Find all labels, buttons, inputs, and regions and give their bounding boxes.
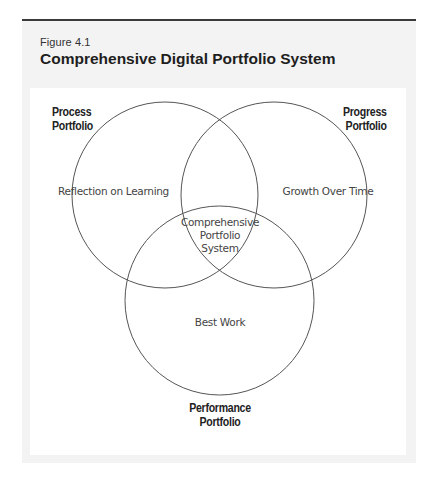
center-line3: System <box>170 242 270 255</box>
center-intersection-label: Comprehensive Portfolio System <box>170 216 270 255</box>
process-label-line2: Portfolio <box>52 119 93 133</box>
process-portfolio-label: Process Portfolio <box>52 105 93 133</box>
progress-label-line2: Portfolio <box>343 119 387 133</box>
center-line1: Comprehensive <box>170 216 270 229</box>
reflection-on-learning-text: Reflection on Learning <box>58 185 168 198</box>
performance-label-line1: Performance <box>167 401 273 415</box>
progress-portfolio-label: Progress Portfolio <box>343 105 387 133</box>
performance-portfolio-label: Performance Portfolio <box>167 401 273 429</box>
process-label-line1: Process <box>52 105 93 119</box>
best-work-text: Best Work <box>170 316 270 329</box>
performance-label-line2: Portfolio <box>167 415 273 429</box>
center-line2: Portfolio <box>170 229 270 242</box>
growth-over-time-text: Growth Over Time <box>278 185 378 198</box>
progress-label-line1: Progress <box>343 105 387 119</box>
